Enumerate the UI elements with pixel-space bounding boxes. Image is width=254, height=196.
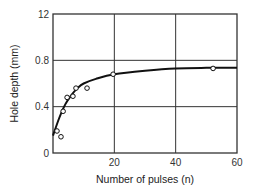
- y-axis-label: Hole depth (mm): [8, 44, 20, 122]
- data-point: [65, 95, 70, 100]
- data-point: [71, 94, 76, 99]
- x-axis-label: Number of pulses (n): [96, 173, 194, 185]
- data-point: [211, 66, 216, 71]
- data-point: [55, 129, 60, 134]
- data-point: [74, 86, 79, 91]
- data-point: [61, 109, 66, 114]
- fit-curve: [53, 68, 237, 136]
- x-tick-labels: 204060: [109, 157, 243, 168]
- data-point: [111, 72, 116, 77]
- y-tick-label: 12: [38, 9, 50, 20]
- data-point: [85, 86, 90, 91]
- y-tick-label: 0.8: [35, 55, 49, 66]
- x-tick-label: 60: [231, 157, 243, 168]
- y-tick-labels: 00.40.812: [35, 9, 49, 159]
- plot-frame: [53, 14, 237, 153]
- x-tick-label: 20: [109, 157, 121, 168]
- y-tick-label: 0.4: [35, 101, 49, 112]
- x-tick-label: 40: [170, 157, 182, 168]
- data-points: [55, 66, 216, 139]
- grid-lines: [53, 14, 237, 153]
- y-tick-label: 0: [43, 148, 49, 159]
- data-point: [59, 134, 64, 139]
- chart: 00.40.812 204060 Number of pulses (n) Ho…: [0, 0, 254, 196]
